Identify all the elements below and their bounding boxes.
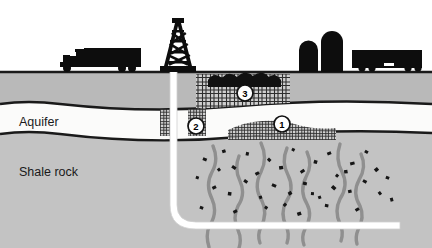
callout-2-label: 2 [193, 121, 198, 132]
callout-3-label: 3 [242, 88, 247, 99]
callout-3[interactable]: 3 [237, 85, 253, 101]
callout-1[interactable]: 1 [274, 116, 290, 132]
diagram-canvas: Aquifer Shale rock 1 2 3 [0, 0, 432, 248]
storage-tank-a [299, 41, 318, 73]
callout-2[interactable]: 2 [188, 118, 204, 134]
layer-shale-rock [0, 131, 432, 248]
fracking-cross-section: Aquifer Shale rock 1 2 3 [0, 0, 432, 248]
storage-tank-b [321, 31, 343, 72]
callout-1-label: 1 [279, 119, 285, 130]
label-shale-rock: Shale rock [19, 165, 79, 179]
label-aquifer: Aquifer [19, 115, 59, 129]
